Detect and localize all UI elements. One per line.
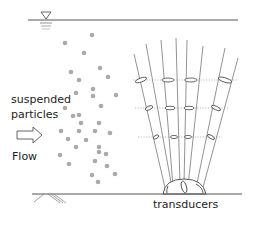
particle-dot [77, 129, 82, 134]
particle-dot [105, 164, 110, 169]
particle-dot [96, 180, 101, 185]
particle-dot [106, 75, 111, 80]
ground-hatch-icon [34, 194, 66, 203]
particle-dot [79, 121, 84, 126]
particle-dot [99, 104, 104, 109]
particle-dot [113, 172, 118, 177]
particle-dot [97, 150, 102, 155]
suspended-label: suspended [11, 94, 71, 106]
particle-dot [77, 113, 82, 118]
particle-dot [97, 145, 102, 150]
particle-dot [84, 138, 89, 143]
particle-dot [63, 41, 68, 46]
particle-dot [97, 121, 102, 126]
particle-dot [59, 129, 64, 134]
particle-dot [74, 91, 79, 96]
particle-dot [69, 70, 74, 75]
particle-dot [71, 114, 76, 119]
particle-dot [98, 66, 103, 71]
particle-dot [74, 145, 79, 150]
suspended-particles [58, 33, 119, 185]
particle-dot [90, 33, 95, 38]
particle-dot [63, 106, 68, 111]
transducer-head [163, 179, 206, 194]
particle-dot [77, 78, 82, 83]
particle-dot [66, 137, 71, 142]
transducers-label: transducers [153, 199, 218, 211]
particle-dot [104, 152, 109, 157]
particle-dot [67, 162, 72, 167]
flow-arrow-icon [17, 127, 42, 143]
particle-dot [114, 93, 119, 98]
particle-dot [108, 131, 113, 136]
particle-dot [91, 87, 96, 92]
particle-dot [82, 51, 87, 56]
particle-dot [58, 153, 63, 158]
particle-dot [90, 173, 95, 178]
particle-dot [93, 129, 98, 134]
beam-cells [135, 76, 233, 141]
acoustic-beams [134, 38, 238, 192]
particles-label: particles [11, 109, 58, 121]
particle-dot [91, 94, 96, 99]
flow-label: Flow [12, 151, 37, 163]
particle-dot [93, 159, 98, 164]
